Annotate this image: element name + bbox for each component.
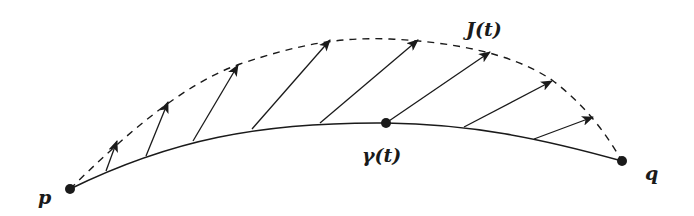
jacobi-vector-arrow bbox=[534, 117, 593, 139]
point-q-dot bbox=[617, 156, 627, 166]
point-p-dot bbox=[65, 184, 75, 194]
jacobi-vectors bbox=[106, 40, 593, 171]
jacobi-vector-arrow bbox=[252, 40, 330, 129]
label-q: q bbox=[645, 162, 658, 184]
label-p: p bbox=[38, 186, 52, 208]
jacobi-vector-arrow bbox=[464, 81, 552, 127]
geodesic-curve bbox=[70, 123, 622, 189]
label-jacobi-field: J(t) bbox=[463, 18, 502, 40]
jacobi-vector-arrow bbox=[193, 65, 238, 141]
jacobi-vector-arrow bbox=[146, 102, 168, 156]
jacobi-vector-arrow bbox=[106, 141, 117, 171]
jacobi-field-envelope-dashed bbox=[70, 39, 622, 189]
jacobi-field-diagram: p q γ(t) J(t) bbox=[0, 0, 694, 216]
jacobi-vector-arrow bbox=[386, 52, 490, 123]
point-gamma-t-dot bbox=[381, 118, 391, 128]
label-gamma-t: γ(t) bbox=[362, 144, 401, 166]
